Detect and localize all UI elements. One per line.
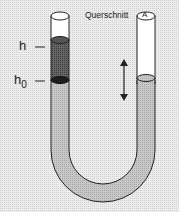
u-tube-drawing bbox=[0, 0, 179, 212]
u-tube-diagram: h h0 Querschnitt A bbox=[0, 0, 179, 212]
liquid-surface-h bbox=[51, 37, 69, 44]
displaced-liquid-column bbox=[51, 40, 69, 80]
label-area-a: A bbox=[142, 10, 147, 19]
label-h0: h0 bbox=[14, 72, 27, 90]
left-tube-opening bbox=[51, 12, 69, 20]
label-h: h bbox=[19, 38, 26, 53]
right-tube-empty bbox=[137, 16, 155, 78]
right-liquid-surface bbox=[137, 75, 155, 82]
liquid-surface-h0 bbox=[51, 77, 69, 84]
label-cross-section: Querschnitt bbox=[85, 10, 128, 20]
label-h0-sub: 0 bbox=[21, 79, 27, 90]
